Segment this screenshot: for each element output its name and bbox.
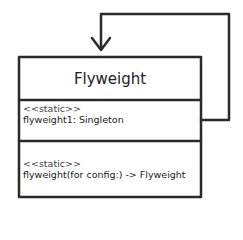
attribute-text: flyweight1: Singleton [23,114,199,125]
class-name: Flyweight [19,57,201,100]
method-text: flyweight(for config:) -> Flyweight [23,169,199,180]
method-section: <<static>> flyweight(for config:) -> Fly… [23,158,199,180]
attribute-stereotype: <<static>> [23,103,199,114]
method-stereotype: <<static>> [23,158,199,169]
attribute-section: <<static>> flyweight1: Singleton [23,103,199,125]
